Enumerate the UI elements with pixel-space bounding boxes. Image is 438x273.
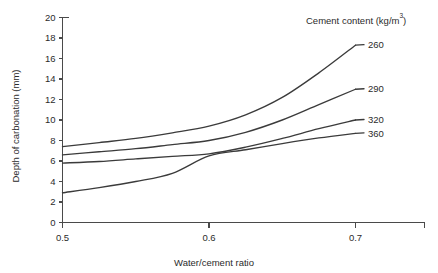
- legend-title: Cement content (kg/m3): [306, 11, 406, 26]
- legend-title-main: Cement content (kg/m: [306, 15, 400, 26]
- y-axis-title: Depth of carbonation (mm): [10, 70, 21, 183]
- y-tick-label: 14: [45, 73, 56, 84]
- series-label-290[interactable]: 290: [368, 83, 384, 94]
- y-tick-label: 20: [45, 12, 56, 23]
- x-tick-label: 0.5: [56, 232, 69, 243]
- series-label-260[interactable]: 260: [368, 39, 384, 50]
- series-line-260: [63, 45, 356, 146]
- x-tick-label: 0.7: [349, 232, 362, 243]
- legend-title-group: Cement content (kg/m3): [306, 11, 406, 26]
- series-label-360[interactable]: 360: [368, 128, 384, 139]
- y-tick-label: 8: [50, 135, 55, 146]
- carbonation-depth-chart: 02468101214161820 Depth of carbonation (…: [0, 0, 438, 273]
- x-axis: 0.50.60.7 Water/cement ratio: [56, 223, 425, 269]
- chart-svg: 02468101214161820 Depth of carbonation (…: [0, 0, 438, 273]
- series-line-290: [63, 89, 356, 155]
- y-axis: 02468101214161820 Depth of carbonation (…: [10, 12, 69, 228]
- legend-title-tail: ): [403, 15, 406, 26]
- x-tick-label: 0.6: [202, 232, 215, 243]
- series-leader-260: [356, 45, 365, 46]
- series-leader-320: [356, 120, 365, 121]
- series-leader-290: [356, 89, 365, 90]
- series-path-group: [63, 45, 365, 193]
- x-axis-title: Water/cement ratio: [174, 257, 254, 268]
- x-tick-label-group: 0.50.60.7: [56, 232, 362, 243]
- y-tick-label: 18: [45, 32, 56, 43]
- y-tick-label: 0: [50, 217, 55, 228]
- series-label-320[interactable]: 320: [368, 114, 384, 125]
- y-tick-label: 2: [50, 196, 55, 207]
- y-tick-label: 16: [45, 53, 56, 64]
- x-tick-group: [63, 223, 425, 228]
- y-tick-label-group: 02468101214161820: [45, 12, 56, 228]
- y-tick-label: 10: [45, 114, 56, 125]
- y-tick-label: 6: [50, 155, 55, 166]
- y-tick-label: 4: [50, 176, 55, 187]
- y-tick-label: 12: [45, 94, 56, 105]
- series-leader-360: [356, 133, 365, 134]
- series-label-group: 260290320360: [368, 39, 384, 138]
